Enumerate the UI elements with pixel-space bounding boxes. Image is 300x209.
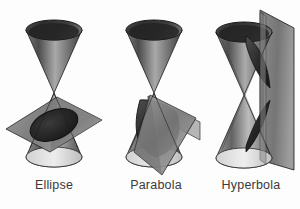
upper-cone-interior xyxy=(29,23,79,40)
caption-hyperbola: Hyperbola xyxy=(202,178,300,192)
ellipse-cone-diagram xyxy=(0,0,108,178)
parabola-cone-diagram xyxy=(104,0,208,178)
upper-cone xyxy=(126,20,182,93)
caption-parabola: Parabola xyxy=(104,178,208,192)
panel-hyperbola: Hyperbola xyxy=(202,0,300,209)
hyperbola-cone-diagram xyxy=(202,0,300,178)
upper-cone-interior xyxy=(129,23,179,40)
conic-sections-figure: Ellipse xyxy=(0,0,300,209)
panel-ellipse: Ellipse xyxy=(0,0,108,209)
plane-front-sliver xyxy=(260,12,266,164)
upper-cone xyxy=(26,20,82,93)
caption-ellipse: Ellipse xyxy=(0,178,108,192)
cutting-plane-ellipse xyxy=(6,97,102,152)
panel-parabola: Parabola xyxy=(104,0,208,209)
plane-front-strip xyxy=(260,12,266,164)
